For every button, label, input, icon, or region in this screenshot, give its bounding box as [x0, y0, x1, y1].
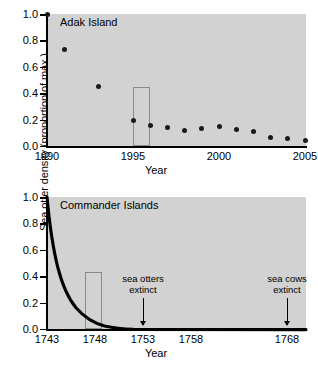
data-point — [234, 127, 239, 132]
data-point — [217, 124, 222, 129]
data-point — [45, 12, 50, 17]
y-tick-label: 0.2 — [5, 114, 38, 126]
data-point — [303, 138, 308, 143]
x-tick-label: 1990 — [27, 150, 67, 162]
y-tick-label: 0.4 — [5, 87, 38, 99]
x-tick-label: 2000 — [199, 150, 239, 162]
plot-background-top — [47, 14, 306, 146]
annotation-arrow-sea-otters — [143, 298, 151, 327]
figure-sea-otter-density: Sea otter density (proportion of max.) 1… — [0, 0, 318, 372]
panel-title-adak: Adak Island — [60, 16, 117, 28]
data-point — [251, 129, 256, 134]
data-point — [131, 118, 136, 123]
y-tick-label: 0.8 — [5, 34, 38, 46]
annotation-line1: sea cows — [267, 273, 307, 284]
annotation-line2: extinct — [129, 284, 156, 295]
data-point — [165, 125, 170, 130]
x-tick-label: 1995 — [113, 150, 153, 162]
overlay-bar-top — [133, 87, 150, 146]
y-tick-mark — [40, 120, 46, 122]
data-point — [96, 84, 101, 89]
y-tick-mark — [40, 40, 46, 42]
x-axis-top — [46, 146, 307, 148]
data-point — [148, 123, 153, 128]
y-tick-mark — [40, 146, 46, 148]
panel-commander-islands: 1.0 0.8 0.6 0.4 0.2 0.0 1743 1748 1753 1… — [0, 186, 318, 372]
y-axis-top — [46, 14, 48, 147]
panel-adak-island: 1.0 0.8 0.6 0.4 0.2 0.0 1990 1995 2000 2… — [0, 0, 318, 186]
x-axis-title-top: Year — [126, 164, 186, 176]
y-tick-label: 1.0 — [5, 8, 38, 20]
x-tick-label: 2005 — [285, 150, 318, 162]
data-point — [268, 135, 273, 140]
annotation-sea-cows-extinct: sea cows extinct — [257, 274, 317, 295]
y-tick-label: 0.6 — [5, 61, 38, 73]
data-point — [62, 47, 67, 52]
annotation-sea-otters-extinct: sea otters extinct — [113, 274, 173, 295]
y-tick-mark — [40, 67, 46, 69]
annotation-line2: extinct — [273, 284, 300, 295]
annotation-arrow-sea-cows — [287, 298, 295, 327]
annotation-line1: sea otters — [122, 273, 164, 284]
y-tick-mark — [40, 93, 46, 95]
